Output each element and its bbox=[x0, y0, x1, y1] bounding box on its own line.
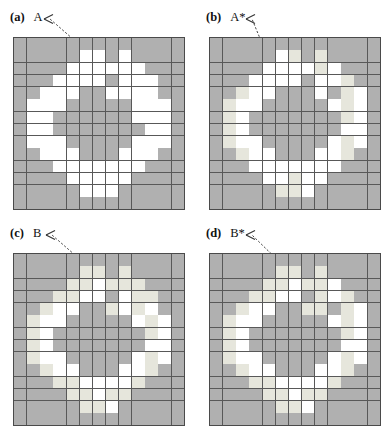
white-cell bbox=[289, 291, 301, 303]
dark-gray-cell bbox=[263, 413, 275, 425]
panel-a-grid bbox=[13, 37, 185, 210]
dark-gray-cell bbox=[276, 413, 288, 425]
dark-gray-cell bbox=[172, 124, 184, 136]
light-gray-cell bbox=[315, 303, 327, 315]
dark-gray-cell bbox=[302, 328, 314, 340]
dark-gray-cell bbox=[210, 303, 222, 315]
dark-gray-cell bbox=[210, 173, 222, 185]
dark-gray-cell bbox=[119, 112, 131, 124]
light-gray-cell bbox=[53, 377, 65, 389]
dark-gray-cell bbox=[302, 364, 314, 376]
dark-gray-cell bbox=[172, 401, 184, 413]
dark-gray-cell bbox=[40, 185, 52, 197]
light-gray-cell bbox=[302, 389, 314, 401]
cell-grid bbox=[210, 254, 380, 425]
light-gray-cell bbox=[132, 303, 144, 315]
dark-gray-cell bbox=[315, 38, 327, 50]
dark-gray-cell bbox=[80, 87, 92, 99]
white-cell bbox=[106, 63, 118, 75]
dark-gray-cell bbox=[315, 197, 327, 209]
dark-gray-cell bbox=[132, 389, 144, 401]
dark-gray-cell bbox=[27, 266, 39, 278]
dark-gray-cell bbox=[106, 99, 118, 111]
dark-gray-cell bbox=[263, 38, 275, 50]
white-cell bbox=[40, 99, 52, 111]
dark-gray-cell bbox=[172, 303, 184, 315]
dark-gray-cell bbox=[53, 279, 65, 291]
light-gray-cell bbox=[341, 315, 353, 327]
dark-gray-cell bbox=[354, 413, 366, 425]
light-gray-cell bbox=[341, 328, 353, 340]
white-cell bbox=[119, 161, 131, 173]
white-cell bbox=[302, 377, 314, 389]
dark-gray-cell bbox=[276, 112, 288, 124]
white-cell bbox=[158, 124, 170, 136]
dark-gray-cell bbox=[80, 148, 92, 160]
dark-gray-cell bbox=[354, 364, 366, 376]
light-gray-cell bbox=[236, 87, 248, 99]
dark-gray-cell bbox=[276, 340, 288, 352]
white-cell bbox=[354, 124, 366, 136]
white-cell bbox=[132, 352, 144, 364]
white-cell bbox=[132, 136, 144, 148]
dark-gray-cell bbox=[14, 63, 26, 75]
white-cell bbox=[249, 148, 261, 160]
dark-gray-cell bbox=[263, 315, 275, 327]
dark-gray-cell bbox=[236, 50, 248, 62]
dark-gray-cell bbox=[223, 185, 235, 197]
white-cell bbox=[67, 63, 79, 75]
dark-gray-cell bbox=[172, 328, 184, 340]
white-cell bbox=[315, 161, 327, 173]
white-cell bbox=[354, 303, 366, 315]
dark-gray-cell bbox=[132, 266, 144, 278]
white-cell bbox=[119, 87, 131, 99]
dark-gray-cell bbox=[145, 173, 157, 185]
panel-label: B* bbox=[230, 226, 245, 241]
dark-gray-cell bbox=[119, 413, 131, 425]
white-cell bbox=[315, 148, 327, 160]
dark-gray-cell bbox=[145, 401, 157, 413]
dark-gray-cell bbox=[158, 63, 170, 75]
dark-gray-cell bbox=[223, 148, 235, 160]
light-gray-cell bbox=[132, 279, 144, 291]
dark-gray-cell bbox=[368, 173, 380, 185]
white-cell bbox=[53, 303, 65, 315]
white-cell bbox=[80, 173, 92, 185]
dark-gray-cell bbox=[236, 75, 248, 87]
dark-gray-cell bbox=[27, 413, 39, 425]
dark-gray-cell bbox=[145, 279, 157, 291]
dark-gray-cell bbox=[27, 279, 39, 291]
dark-gray-cell bbox=[302, 340, 314, 352]
white-cell bbox=[276, 161, 288, 173]
dark-gray-cell bbox=[341, 161, 353, 173]
dark-gray-cell bbox=[14, 364, 26, 376]
dark-gray-cell bbox=[354, 173, 366, 185]
dark-gray-cell bbox=[236, 389, 248, 401]
dark-gray-cell bbox=[302, 50, 314, 62]
dark-gray-cell bbox=[119, 352, 131, 364]
dark-gray-cell bbox=[93, 124, 105, 136]
dark-gray-cell bbox=[80, 340, 92, 352]
dark-gray-cell bbox=[223, 75, 235, 87]
dark-gray-cell bbox=[289, 197, 301, 209]
white-cell bbox=[158, 315, 170, 327]
dark-gray-cell bbox=[158, 50, 170, 62]
dark-gray-cell bbox=[302, 99, 314, 111]
dark-gray-cell bbox=[14, 340, 26, 352]
dark-gray-cell bbox=[158, 364, 170, 376]
dark-gray-cell bbox=[210, 50, 222, 62]
dark-gray-cell bbox=[14, 75, 26, 87]
dark-gray-cell bbox=[236, 377, 248, 389]
dark-gray-cell bbox=[341, 50, 353, 62]
white-cell bbox=[132, 315, 144, 327]
dark-gray-cell bbox=[67, 352, 79, 364]
dark-gray-cell bbox=[354, 377, 366, 389]
white-cell bbox=[119, 75, 131, 87]
light-gray-cell bbox=[263, 389, 275, 401]
dark-gray-cell bbox=[315, 401, 327, 413]
dark-gray-cell bbox=[223, 401, 235, 413]
dark-gray-cell bbox=[132, 328, 144, 340]
light-gray-cell bbox=[132, 291, 144, 303]
dark-gray-cell bbox=[93, 38, 105, 50]
dark-gray-cell bbox=[223, 38, 235, 50]
